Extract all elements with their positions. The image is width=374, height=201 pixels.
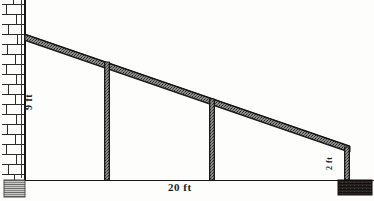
interior-post-1 bbox=[105, 62, 110, 180]
right-post bbox=[345, 147, 350, 180]
left-height-dimension-label: 9 ft bbox=[23, 94, 34, 110]
sloped-rafter bbox=[25, 34, 350, 153]
interior-post-2 bbox=[210, 99, 215, 180]
right-height-dimension-label: 2 ft bbox=[325, 157, 334, 170]
left-footing bbox=[4, 180, 25, 197]
masonry-wall bbox=[2, 0, 25, 181]
diagram-canvas bbox=[0, 0, 374, 201]
shed-elevation-diagram: 20 ft 9 ft 2 ft bbox=[0, 0, 374, 201]
right-footing bbox=[338, 180, 372, 195]
span-dimension-label: 20 ft bbox=[168, 181, 192, 193]
